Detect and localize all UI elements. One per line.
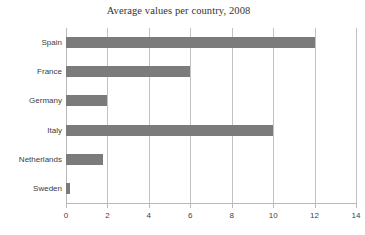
gridline-14 <box>356 28 357 203</box>
bar-sweden <box>66 183 70 194</box>
x-tick-8 <box>232 204 233 208</box>
plot-area <box>66 28 356 203</box>
gridline-10 <box>273 28 274 203</box>
bar-netherlands <box>66 154 103 165</box>
gridline-12 <box>315 28 316 203</box>
x-tick-label-10: 10 <box>261 211 285 220</box>
category-label-france: France <box>37 67 62 76</box>
category-label-germany: Germany <box>29 96 62 105</box>
category-label-italy: Italy <box>47 126 62 135</box>
x-tick-14 <box>356 204 357 208</box>
bar-italy <box>66 125 273 136</box>
x-tick-4 <box>149 204 150 208</box>
gridline-2 <box>107 28 108 203</box>
x-tick-0 <box>66 204 67 208</box>
gridline-6 <box>190 28 191 203</box>
x-tick-2 <box>107 204 108 208</box>
x-tick-label-2: 2 <box>95 211 119 220</box>
x-tick-label-8: 8 <box>220 211 244 220</box>
x-axis-line <box>66 203 357 204</box>
x-tick-6 <box>190 204 191 208</box>
chart-title: Average values per country, 2008 <box>0 5 357 16</box>
x-tick-label-14: 14 <box>344 211 365 220</box>
category-label-spain: Spain <box>42 38 62 47</box>
bar-spain <box>66 37 315 48</box>
x-tick-label-0: 0 <box>54 211 78 220</box>
x-tick-10 <box>273 204 274 208</box>
category-label-sweden: Sweden <box>33 184 62 193</box>
x-tick-12 <box>315 204 316 208</box>
category-label-netherlands: Netherlands <box>19 155 62 164</box>
x-tick-label-6: 6 <box>178 211 202 220</box>
x-tick-label-4: 4 <box>137 211 161 220</box>
gridline-8 <box>232 28 233 203</box>
bar-france <box>66 66 190 77</box>
plot-frame <box>66 28 356 203</box>
bar-germany <box>66 95 107 106</box>
gridline-4 <box>149 28 150 203</box>
x-tick-label-12: 12 <box>303 211 327 220</box>
